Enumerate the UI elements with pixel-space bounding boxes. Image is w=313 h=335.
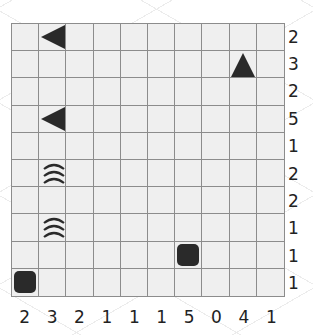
cell-r3-c3[interactable]: [94, 106, 121, 133]
cell-r0-c3[interactable]: [94, 24, 121, 51]
cell-r6-c7[interactable]: [202, 187, 229, 214]
cell-r5-c5[interactable]: [148, 160, 175, 187]
cell-r6-c6[interactable]: [175, 187, 202, 214]
cell-r8-c6[interactable]: [175, 242, 202, 269]
cell-r8-c0[interactable]: [12, 242, 39, 269]
cell-r4-c9[interactable]: [257, 133, 284, 160]
cell-r0-c2[interactable]: [66, 24, 93, 51]
cell-r8-c2[interactable]: [66, 242, 93, 269]
cell-r4-c0[interactable]: [12, 133, 39, 160]
cell-r3-c5[interactable]: [148, 106, 175, 133]
cell-r4-c6[interactable]: [175, 133, 202, 160]
cell-r1-c2[interactable]: [66, 51, 93, 78]
cell-r3-c6[interactable]: [175, 106, 202, 133]
cell-r6-c8[interactable]: [230, 187, 257, 214]
cell-r1-c6[interactable]: [175, 51, 202, 78]
cell-r8-c5[interactable]: [148, 242, 175, 269]
cell-r6-c1[interactable]: [39, 187, 66, 214]
cell-r2-c5[interactable]: [148, 78, 175, 105]
cell-r7-c2[interactable]: [66, 214, 93, 241]
cell-r7-c8[interactable]: [230, 214, 257, 241]
cell-r8-c8[interactable]: [230, 242, 257, 269]
cell-r5-c0[interactable]: [12, 160, 39, 187]
cell-r1-c3[interactable]: [94, 51, 121, 78]
cell-r9-c5[interactable]: [148, 269, 175, 296]
cell-r3-c9[interactable]: [257, 106, 284, 133]
cell-r7-c6[interactable]: [175, 214, 202, 241]
cell-r7-c0[interactable]: [12, 214, 39, 241]
cell-r0-c0[interactable]: [12, 24, 39, 51]
cell-r2-c4[interactable]: [121, 78, 148, 105]
cell-r9-c1[interactable]: [39, 269, 66, 296]
cell-r4-c1[interactable]: [39, 133, 66, 160]
cell-r3-c1[interactable]: [39, 106, 66, 133]
cell-r6-c9[interactable]: [257, 187, 284, 214]
cell-r7-c1[interactable]: [39, 214, 66, 241]
cell-r6-c0[interactable]: [12, 187, 39, 214]
cell-r9-c2[interactable]: [66, 269, 93, 296]
cell-r4-c5[interactable]: [148, 133, 175, 160]
cell-r2-c2[interactable]: [66, 78, 93, 105]
cell-r0-c6[interactable]: [175, 24, 202, 51]
cell-r5-c4[interactable]: [121, 160, 148, 187]
cell-r8-c4[interactable]: [121, 242, 148, 269]
cell-r8-c9[interactable]: [257, 242, 284, 269]
cell-r5-c6[interactable]: [175, 160, 202, 187]
cell-r5-c7[interactable]: [202, 160, 229, 187]
cell-r8-c3[interactable]: [94, 242, 121, 269]
cell-r4-c8[interactable]: [230, 133, 257, 160]
cell-r1-c0[interactable]: [12, 51, 39, 78]
cell-r7-c7[interactable]: [202, 214, 229, 241]
cell-r9-c4[interactable]: [121, 269, 148, 296]
cell-r0-c1[interactable]: [39, 24, 66, 51]
cell-r4-c4[interactable]: [121, 133, 148, 160]
cell-r5-c8[interactable]: [230, 160, 257, 187]
cell-r2-c8[interactable]: [230, 78, 257, 105]
cell-r2-c9[interactable]: [257, 78, 284, 105]
cell-r2-c3[interactable]: [94, 78, 121, 105]
cell-r4-c7[interactable]: [202, 133, 229, 160]
cell-r5-c2[interactable]: [66, 160, 93, 187]
cell-r2-c6[interactable]: [175, 78, 202, 105]
cell-r9-c7[interactable]: [202, 269, 229, 296]
cell-r3-c8[interactable]: [230, 106, 257, 133]
cell-r0-c7[interactable]: [202, 24, 229, 51]
cell-r2-c7[interactable]: [202, 78, 229, 105]
cell-r5-c9[interactable]: [257, 160, 284, 187]
cell-r7-c4[interactable]: [121, 214, 148, 241]
cell-r1-c7[interactable]: [202, 51, 229, 78]
cell-r6-c3[interactable]: [94, 187, 121, 214]
cell-r6-c5[interactable]: [148, 187, 175, 214]
cell-r7-c5[interactable]: [148, 214, 175, 241]
cell-r6-c2[interactable]: [66, 187, 93, 214]
cell-r5-c1[interactable]: [39, 160, 66, 187]
cell-r1-c4[interactable]: [121, 51, 148, 78]
cell-r0-c5[interactable]: [148, 24, 175, 51]
cell-r5-c3[interactable]: [94, 160, 121, 187]
cell-r9-c8[interactable]: [230, 269, 257, 296]
cell-r1-c1[interactable]: [39, 51, 66, 78]
cell-r8-c7[interactable]: [202, 242, 229, 269]
cell-r7-c3[interactable]: [94, 214, 121, 241]
cell-r0-c8[interactable]: [230, 24, 257, 51]
cell-r3-c2[interactable]: [66, 106, 93, 133]
cell-r9-c6[interactable]: [175, 269, 202, 296]
cell-r0-c4[interactable]: [121, 24, 148, 51]
cell-r4-c3[interactable]: [94, 133, 121, 160]
cell-r3-c0[interactable]: [12, 106, 39, 133]
cell-r3-c7[interactable]: [202, 106, 229, 133]
cell-r8-c1[interactable]: [39, 242, 66, 269]
cell-r7-c9[interactable]: [257, 214, 284, 241]
cell-r6-c4[interactable]: [121, 187, 148, 214]
cell-r3-c4[interactable]: [121, 106, 148, 133]
cell-r9-c3[interactable]: [94, 269, 121, 296]
cell-r2-c0[interactable]: [12, 78, 39, 105]
cell-r2-c1[interactable]: [39, 78, 66, 105]
cell-r1-c5[interactable]: [148, 51, 175, 78]
cell-r9-c0[interactable]: [12, 269, 39, 296]
cell-r9-c9[interactable]: [257, 269, 284, 296]
cell-r1-c9[interactable]: [257, 51, 284, 78]
cell-r1-c8[interactable]: [230, 51, 257, 78]
cell-r4-c2[interactable]: [66, 133, 93, 160]
cell-r0-c9[interactable]: [257, 24, 284, 51]
